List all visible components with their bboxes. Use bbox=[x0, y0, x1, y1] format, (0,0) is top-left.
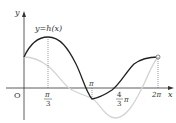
tick-pi-over-3-num: π bbox=[44, 91, 50, 99]
main-curve-h bbox=[24, 37, 158, 99]
origin-label: O bbox=[14, 91, 21, 100]
function-graph: y y=h(x) O π 3 π 4 3 π 2π x bbox=[0, 0, 176, 123]
function-label: y=h(x) bbox=[34, 24, 62, 33]
y-axis-arrow-icon bbox=[22, 11, 26, 17]
y-axis-label: y bbox=[14, 8, 20, 17]
tick-two-pi: 2π bbox=[151, 91, 161, 99]
tick-four-thirds-suffix: π bbox=[123, 96, 129, 104]
tick-pi: π bbox=[88, 80, 94, 88]
tick-four-thirds-num: 4 bbox=[117, 91, 122, 99]
x-axis-label: x bbox=[168, 90, 173, 99]
tick-four-thirds-den: 3 bbox=[117, 100, 121, 108]
tick-pi-over-3-den: 3 bbox=[46, 100, 50, 108]
